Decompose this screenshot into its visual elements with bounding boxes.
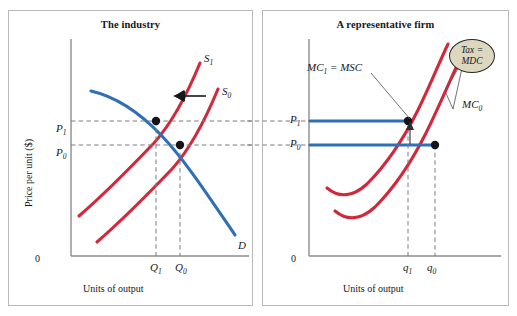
- y-axis-title-industry: Price per unit ($): [23, 139, 34, 207]
- curve-label-mc0-sub: 0: [479, 104, 483, 113]
- price-label-p1-firm-symbol: P: [290, 113, 297, 125]
- economics-figure: The industry: [0, 0, 517, 316]
- origin-label-firm: 0: [291, 254, 296, 264]
- leader-callout-left: [445, 67, 459, 91]
- price-label-p1-industry: P1: [56, 123, 66, 137]
- origin-label-industry: 0: [35, 254, 40, 264]
- curve-label-s1-sub: 1: [210, 58, 214, 67]
- price-label-p0-firm-sub: 0: [297, 143, 301, 152]
- curve-label-mc0-symbol: MC: [462, 98, 479, 110]
- x-axis-title-industry: Units of output: [83, 283, 144, 294]
- supply-shift-arrow: [173, 91, 206, 101]
- supply-curve-s0: [97, 89, 218, 242]
- supply-curve-s1: [79, 63, 200, 216]
- price-label-p1-symbol: P: [56, 122, 63, 134]
- firm-point-e0: [431, 141, 439, 149]
- quantity-label-q0-symbol: Q: [175, 261, 183, 273]
- curve-label-mc1-msc: MC1 = MSC: [307, 62, 362, 76]
- x-axis-title-firm: Units of output: [343, 283, 404, 294]
- curve-label-s0: S0: [222, 86, 231, 100]
- panel-representative-firm: A representative firm: [262, 10, 509, 306]
- leader-callout-bracket: [445, 91, 453, 109]
- price-label-p0-sub: 0: [63, 152, 67, 161]
- quantity-label-q0-firm-sub: 0: [433, 267, 437, 276]
- tax-callout-line2: MDC: [461, 56, 482, 67]
- curve-label-mc1-symbol: MC: [307, 61, 324, 73]
- quantity-label-q1-firm: q1: [403, 262, 412, 276]
- price-label-p1-firm-sub: 1: [297, 119, 301, 128]
- quantity-label-q1-sub: 1: [158, 267, 162, 276]
- panel-industry: The industry: [8, 10, 253, 306]
- curve-label-s0-sub: 0: [228, 91, 232, 100]
- tax-callout-line1: Tax =: [461, 45, 483, 56]
- industry-plot-svg: [9, 11, 252, 305]
- curve-label-mc0: MC0: [462, 99, 482, 113]
- price-label-p0-firm: P0: [290, 138, 300, 152]
- quantity-label-q1: Q1: [150, 262, 162, 276]
- quantity-label-q1-firm-sub: 1: [409, 267, 413, 276]
- curve-label-msc: MSC: [340, 61, 362, 73]
- price-label-p1-firm: P1: [290, 114, 300, 128]
- tax-mdc-callout: Tax = MDC: [449, 39, 495, 73]
- price-label-p0-symbol: P: [56, 146, 63, 158]
- equilibrium-point-e1: [152, 117, 160, 125]
- price-label-p0-firm-symbol: P: [290, 137, 297, 149]
- quantity-label-q0-firm: q0: [427, 262, 436, 276]
- equilibrium-point-e0: [176, 141, 184, 149]
- quantity-label-q0: Q0: [175, 262, 187, 276]
- price-label-p1-sub: 1: [63, 128, 67, 137]
- quantity-label-q1-symbol: Q: [150, 261, 158, 273]
- demand-curve-d: [91, 91, 235, 235]
- curve-label-s1: S1: [204, 53, 213, 67]
- curve-label-d: D: [238, 240, 246, 251]
- quantity-label-q0-sub: 0: [183, 267, 187, 276]
- price-label-p0-industry: P0: [56, 147, 66, 161]
- leader-mc1-msc: [371, 73, 410, 119]
